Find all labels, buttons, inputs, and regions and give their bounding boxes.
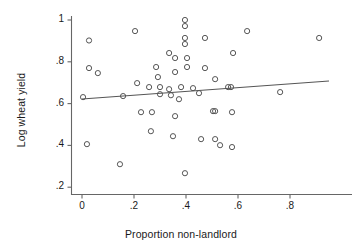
data-point	[157, 92, 162, 97]
data-point	[182, 171, 187, 176]
x-tick-label: .4	[173, 200, 199, 211]
data-point	[202, 35, 207, 40]
data-point	[182, 41, 187, 46]
x-tick-label: .6	[225, 200, 251, 211]
x-axis-ticks	[82, 195, 290, 199]
data-point	[213, 137, 218, 142]
data-point	[213, 77, 218, 82]
data-point	[148, 129, 153, 134]
data-point	[176, 97, 181, 102]
data-point	[154, 64, 159, 69]
scatter-plot-figure: Log wheat yield Proportion non-landlord …	[0, 0, 362, 248]
data-point	[230, 50, 235, 55]
data-point	[138, 110, 143, 115]
data-point	[170, 134, 175, 139]
y-tick-label: .8	[42, 55, 64, 66]
data-point	[172, 69, 177, 74]
data-point	[84, 142, 89, 147]
data-point	[278, 90, 283, 95]
data-point	[184, 55, 189, 60]
data-point	[245, 28, 250, 33]
data-point	[146, 84, 151, 89]
fit-line	[82, 81, 329, 99]
data-point	[155, 74, 160, 79]
data-point	[167, 87, 172, 92]
data-point	[172, 55, 177, 60]
x-tick-label: .2	[121, 200, 147, 211]
y-axis-title: Log wheat yield	[15, 35, 27, 185]
data-point	[202, 65, 207, 70]
y-tick-label: .6	[42, 97, 64, 108]
y-tick-label: 1	[42, 13, 64, 24]
data-point	[157, 84, 162, 89]
data-point	[198, 137, 203, 142]
data-point	[117, 162, 122, 167]
y-axis-ticks	[68, 20, 72, 187]
data-point	[149, 110, 154, 115]
data-point	[182, 35, 187, 40]
data-point	[182, 23, 187, 28]
axes-group	[68, 16, 353, 199]
data-point	[184, 64, 189, 69]
data-point	[95, 70, 100, 75]
data-point	[135, 81, 140, 86]
data-point	[196, 91, 201, 96]
data-point	[217, 143, 222, 148]
x-tick-label: 0	[69, 200, 95, 211]
x-axis-title: Proportion non-landlord	[0, 228, 362, 240]
y-tick-label: .2	[42, 180, 64, 191]
y-tick-label: .4	[42, 138, 64, 149]
data-point	[229, 144, 234, 149]
data-point	[132, 28, 137, 33]
data-point	[182, 17, 187, 22]
data-point	[317, 35, 322, 40]
data-point	[168, 93, 173, 98]
data-point	[86, 38, 91, 43]
regression-fit-line	[82, 81, 329, 99]
data-point	[178, 84, 183, 89]
x-tick-label: .8	[277, 200, 303, 211]
data-point	[172, 114, 177, 119]
data-point	[86, 65, 91, 70]
data-point	[229, 110, 234, 115]
data-point	[167, 50, 172, 55]
data-point	[190, 86, 195, 91]
